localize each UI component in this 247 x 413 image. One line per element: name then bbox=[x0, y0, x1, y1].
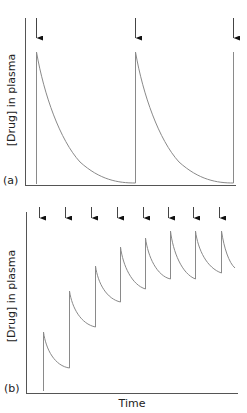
panel-b: (b) [Drug] in plasma Time bbox=[4, 207, 238, 410]
panel-b-x-axis-label: Time bbox=[118, 397, 146, 410]
panel-b-y-axis-label: [Drug] in plasma bbox=[5, 250, 18, 343]
panel-a: (a) [Drug] in plasma bbox=[3, 18, 236, 187]
panel-b-concentration-curve bbox=[44, 231, 236, 391]
panel-b-dose-arrows bbox=[40, 207, 220, 218]
panel-a-y-axis-label: [Drug] in plasma bbox=[5, 54, 18, 147]
panel-a-dose-arrows bbox=[37, 18, 234, 38]
panel-b-label: (b) bbox=[4, 382, 20, 395]
figure: (a) [Drug] in plasma (b) [Drug] in plasm… bbox=[0, 0, 247, 413]
panel-a-label: (a) bbox=[3, 174, 18, 187]
panel-a-concentration-curve bbox=[37, 52, 234, 184]
